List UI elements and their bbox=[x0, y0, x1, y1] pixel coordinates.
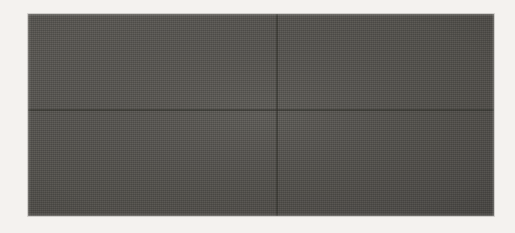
waveform-plot bbox=[28, 14, 494, 216]
oscilloscope-screen bbox=[28, 14, 494, 216]
figure-container bbox=[0, 0, 515, 233]
screen-glow bbox=[28, 14, 494, 216]
